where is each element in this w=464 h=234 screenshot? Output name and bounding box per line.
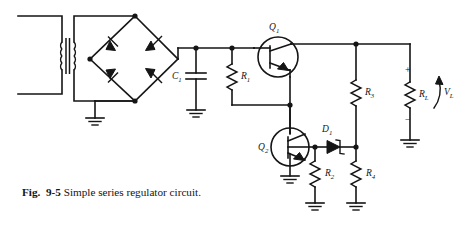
- load-resistor-RL: RL + −: [401, 44, 429, 147]
- D1-triangle: [327, 141, 340, 154]
- bridge-diode-top-right: [146, 37, 162, 51]
- transformer-secondary-top-lead: [74, 16, 135, 42]
- bridge-node-top: [132, 13, 137, 18]
- transistor-Q2: Q2: [258, 128, 315, 183]
- transistor-Q1: Q1: [254, 22, 298, 133]
- zener-diode-D1-label: D1: [321, 124, 332, 136]
- figure-caption: Fig. 9-5 Simple series regulator circuit…: [22, 186, 212, 200]
- transformer-primary-top-lead: [18, 16, 62, 42]
- resistor-R2-label: R2: [324, 168, 335, 180]
- resistor-R3: R3: [351, 41, 375, 149]
- bridge-arm-top-left: [90, 16, 135, 59]
- ground-symbol-R4: [347, 203, 365, 210]
- transistor-Q2-label: Q2: [258, 142, 269, 154]
- capacitor-C1: C1: [172, 45, 206, 117]
- resistor-R4: R4: [347, 147, 376, 210]
- ground-symbol-RL: [401, 140, 419, 147]
- Q1-envelope: [258, 37, 298, 77]
- resistor-R2: R2: [306, 147, 335, 210]
- load-polarity-plus: +: [405, 64, 411, 75]
- R1-top-node: [229, 45, 234, 50]
- resistor-R1-label: R1: [240, 71, 250, 83]
- transformer-primary-bottom-lead: [18, 70, 62, 94]
- R3-top-node: [353, 41, 358, 46]
- figure-container: C1 R1 Q1: [0, 0, 464, 234]
- Q2-collector-link: [290, 133, 305, 134]
- resistor-R4-label: R4: [365, 168, 376, 180]
- Q1-collector-internal: [270, 44, 291, 51]
- bridge-rectifier: [74, 13, 178, 125]
- transformer-core: [66, 38, 70, 74]
- ground-symbol-Q2: [281, 176, 299, 183]
- R4-zigzag: [351, 161, 361, 187]
- ground-symbol-R2: [306, 203, 324, 210]
- ground-symbol-bridge: [86, 118, 104, 125]
- C1-node: [193, 45, 198, 50]
- load-resistor-RL-label: RL: [418, 89, 429, 101]
- RL-zigzag: [405, 82, 415, 108]
- bridge-diode-bottom-right-cathode-bar: [153, 74, 162, 83]
- figure-number: Fig. 9-5: [22, 186, 61, 198]
- capacitor-C1-label: C1: [172, 71, 182, 83]
- figure-caption-text: Simple series regulator circuit.: [64, 186, 201, 198]
- Q1-emitter-arrow: [278, 63, 289, 71]
- R1-zigzag: [227, 64, 237, 90]
- R3-zigzag: [351, 80, 361, 106]
- transformer-secondary-coil: [74, 42, 75, 70]
- bridge-arm-bottom-left: [90, 59, 135, 101]
- Q2-emitter-arrow: [294, 153, 305, 161]
- bridge-diode-bottom-right: [146, 69, 162, 83]
- bridge-arm-top-right: [135, 16, 178, 59]
- R2-zigzag: [310, 161, 320, 187]
- load-polarity-minus: −: [405, 114, 411, 125]
- output-voltage-VL: VL: [434, 76, 454, 108]
- zener-diode-D1: D1: [312, 124, 356, 154]
- resistor-R3-label: R3: [364, 87, 375, 99]
- transformer-secondary-bottom-lead: [74, 70, 135, 101]
- ground-symbol-C1: [187, 110, 205, 117]
- VL-arrowhead: [436, 76, 444, 85]
- Q2-collector-internal: [288, 134, 305, 141]
- transformer-primary-coil: [61, 42, 62, 70]
- transistor-Q1-label: Q1: [269, 22, 279, 34]
- output-voltage-VL-label: VL: [444, 87, 454, 99]
